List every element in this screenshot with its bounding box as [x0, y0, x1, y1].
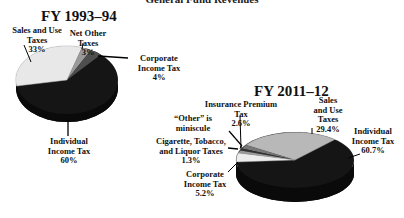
- label-net-other-1993: Net Other Taxes 3%: [68, 29, 108, 58]
- label-individual-1993: Individual Income Tax 60%: [44, 137, 94, 166]
- label-corporate-1993: Corporate Income Tax 4%: [131, 54, 187, 83]
- label-sales-and-use-1993: Sales and Use Taxes 33%: [8, 26, 66, 55]
- label-cigarette: Cigarette, Tobacco, and Liquor Taxes 1.3…: [150, 137, 232, 166]
- label-sales-and-use-2011: Sales and Use Taxes 29.4%: [311, 96, 345, 134]
- label-other: “Other” is miniscule: [165, 114, 221, 133]
- label-corporate-2011: Corporate Income Tax 5.2%: [178, 170, 232, 199]
- label-individual-2011: Individual Income Tax 60.7%: [344, 127, 402, 156]
- chart-title-1993: FY 1993–94: [41, 8, 117, 25]
